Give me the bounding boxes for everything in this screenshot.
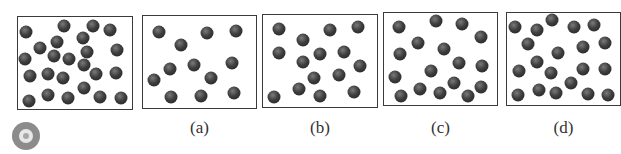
particle [425, 65, 438, 78]
particle [51, 36, 64, 49]
particle [205, 72, 218, 85]
particle [475, 81, 488, 94]
particle [115, 92, 128, 105]
panel-label-d: (d) [534, 118, 594, 138]
particle [81, 46, 94, 59]
particle [48, 50, 61, 63]
particle [195, 90, 208, 103]
particle [354, 60, 367, 73]
particle [57, 72, 70, 85]
particle [599, 63, 612, 76]
particle [546, 14, 559, 27]
particle [462, 90, 475, 103]
particle [456, 18, 469, 31]
particle [273, 23, 286, 36]
particle [324, 24, 337, 37]
particle [42, 89, 55, 102]
particle [297, 56, 310, 69]
particle [394, 48, 407, 61]
particle [188, 59, 201, 72]
particle [476, 60, 489, 73]
particle [94, 91, 107, 104]
particle [148, 74, 161, 87]
particle [475, 31, 488, 44]
particle [62, 92, 75, 105]
panel-label-b: (b) [290, 118, 350, 138]
particle [531, 24, 544, 37]
particle [512, 89, 525, 102]
particle [430, 15, 443, 28]
particle [602, 89, 615, 102]
particle [153, 26, 166, 39]
particle [297, 34, 310, 47]
particle [338, 46, 351, 59]
particle [531, 56, 544, 69]
particle [268, 91, 281, 104]
particle [599, 37, 612, 50]
particle [78, 59, 91, 72]
particle [509, 21, 522, 34]
particle [104, 24, 117, 37]
particle [352, 21, 365, 34]
panel-label-c: (c) [411, 118, 471, 138]
disc-icon [12, 122, 40, 150]
particle [201, 27, 214, 40]
particle [550, 87, 563, 100]
particle [175, 39, 188, 52]
particle [395, 90, 408, 103]
particle [308, 72, 321, 85]
particle [348, 86, 361, 99]
particle [273, 47, 286, 60]
particle [110, 67, 123, 80]
particle [34, 42, 47, 55]
particle [414, 83, 427, 96]
particle [77, 32, 90, 45]
particle [111, 44, 124, 57]
particle [24, 70, 37, 83]
particle [393, 21, 406, 34]
particle [314, 48, 327, 61]
particle [577, 41, 590, 54]
particle [20, 26, 33, 39]
particle [448, 77, 461, 90]
particle [545, 67, 558, 80]
particle [588, 19, 601, 32]
particle [314, 90, 327, 103]
particle [58, 20, 71, 33]
particle [533, 84, 546, 97]
particle [42, 68, 55, 81]
particle [513, 65, 526, 78]
particle [438, 43, 451, 56]
particle [577, 63, 590, 76]
particle [23, 95, 36, 108]
particle [333, 69, 346, 82]
particle [522, 38, 535, 51]
particle [165, 91, 178, 104]
particle [228, 87, 241, 100]
particle [453, 57, 466, 70]
particle [164, 63, 177, 76]
particle [293, 83, 306, 96]
particle [568, 21, 581, 34]
particle [582, 88, 595, 101]
particle [389, 71, 402, 84]
panel-label-a: (a) [170, 118, 230, 138]
particle [412, 37, 425, 50]
particle [434, 87, 447, 100]
particle [87, 20, 100, 33]
particle [63, 53, 76, 66]
particle [552, 47, 565, 60]
particle [78, 82, 91, 95]
particle [230, 25, 243, 38]
particle [19, 53, 32, 66]
particle [565, 77, 578, 90]
particle [90, 68, 103, 81]
particle [226, 57, 239, 70]
